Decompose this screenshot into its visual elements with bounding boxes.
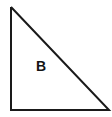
figure-background — [0, 0, 112, 117]
triangle-label-b: B — [36, 58, 46, 74]
triangle-diagram: B — [0, 0, 112, 117]
geometry-figure-canvas: B — [0, 0, 112, 117]
